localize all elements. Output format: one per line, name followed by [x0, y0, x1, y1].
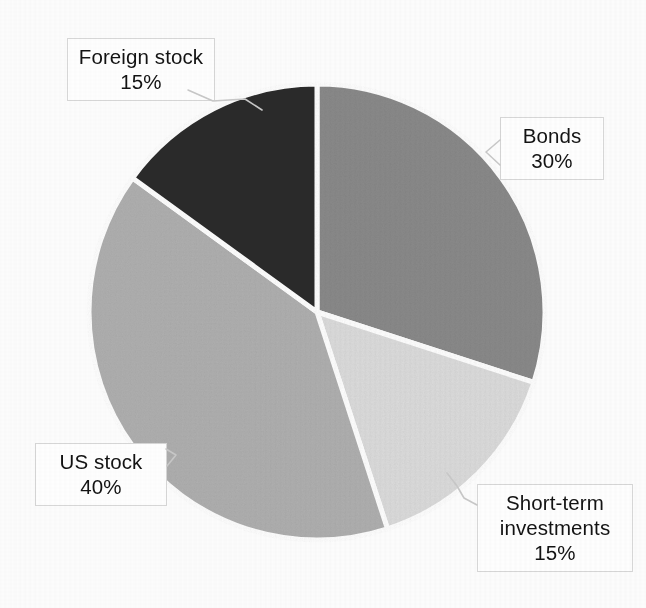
callout-foreign-stock-percent: 15%: [77, 69, 205, 94]
callout-short-term-investments: Short-term investments 15%: [477, 484, 633, 572]
callout-short-term-name-line1: Short-term: [487, 490, 623, 515]
callout-us-stock-name: US stock: [45, 449, 157, 474]
callout-short-term-name-line2: investments: [487, 515, 623, 540]
pie-chart-figure: Foreign stock 15% Bonds 30% Short-term i…: [0, 0, 646, 608]
callout-short-term-percent: 15%: [487, 540, 623, 565]
callout-bonds-percent: 30%: [510, 148, 594, 173]
callout-us-stock: US stock 40%: [35, 443, 167, 506]
callout-bonds-name: Bonds: [510, 123, 594, 148]
callout-bonds: Bonds 30%: [500, 117, 604, 180]
callout-foreign-stock-name: Foreign stock: [77, 44, 205, 69]
callout-us-stock-percent: 40%: [45, 474, 157, 499]
callout-foreign-stock: Foreign stock 15%: [67, 38, 215, 101]
